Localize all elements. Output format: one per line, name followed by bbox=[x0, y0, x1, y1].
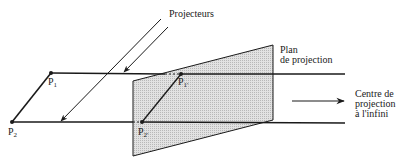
label-p2-prime-sub: 2' bbox=[144, 131, 149, 139]
label-p1-prime-sub: 1' bbox=[184, 81, 189, 89]
projectors-label: Projecteurs bbox=[169, 9, 214, 19]
projection-line-bottom-right bbox=[142, 122, 345, 123]
label-p2-prime: P2' bbox=[138, 127, 148, 139]
label-p1-sub: 1 bbox=[54, 81, 58, 89]
projection-plane bbox=[133, 45, 273, 156]
point-p2-prime bbox=[140, 120, 144, 124]
segment-p1-p2 bbox=[12, 73, 51, 122]
center-label: Centre de projection à l'infini bbox=[355, 89, 396, 119]
label-p1: P1 bbox=[48, 77, 57, 89]
point-p1 bbox=[49, 71, 53, 75]
plane-label: Plan de projection bbox=[280, 45, 332, 65]
point-p2 bbox=[10, 120, 14, 124]
center-label-line3: à l'infini bbox=[355, 109, 396, 119]
label-p1-prime: P1' bbox=[178, 77, 188, 89]
label-p2-sub: 2 bbox=[14, 131, 18, 139]
projection-diagram bbox=[0, 0, 405, 166]
plane-label-line2: de projection bbox=[280, 55, 332, 65]
label-p2: P2 bbox=[8, 127, 17, 139]
